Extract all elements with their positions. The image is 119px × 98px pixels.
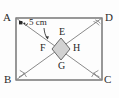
vertex-label-c: C <box>104 74 111 85</box>
geometry-figure: A D B C E F G H 5 cm <box>0 0 119 98</box>
vertex-label-g: G <box>58 61 65 71</box>
vertex-label-b: B <box>4 74 11 85</box>
vertex-label-a: A <box>3 12 11 23</box>
rhombus-efgh <box>52 38 70 60</box>
dot-mark-a-icon <box>24 23 26 25</box>
vertex-label-h: H <box>73 43 80 53</box>
figure-canvas <box>0 0 119 98</box>
vertex-label-e: E <box>59 27 65 37</box>
dimension-label-5cm: 5 cm <box>29 18 47 27</box>
vertex-label-d: D <box>105 12 113 23</box>
right-angle-mark-a-icon <box>19 21 22 24</box>
vertex-label-f: F <box>40 43 46 53</box>
